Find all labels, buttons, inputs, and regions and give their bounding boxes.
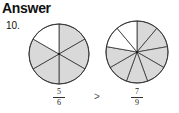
left-denominator: 6	[57, 98, 61, 107]
right-fraction-label: 7 9	[131, 88, 143, 107]
right-denominator: 9	[135, 98, 139, 107]
right-fraction-circle	[106, 21, 168, 83]
left-fraction-circle	[29, 24, 89, 84]
fraction-circles-figure	[0, 0, 179, 113]
right-numerator: 7	[135, 87, 139, 96]
left-fraction-label: 5 6	[53, 88, 65, 107]
left-numerator: 5	[57, 87, 61, 96]
comparison-symbol: >	[94, 91, 100, 102]
